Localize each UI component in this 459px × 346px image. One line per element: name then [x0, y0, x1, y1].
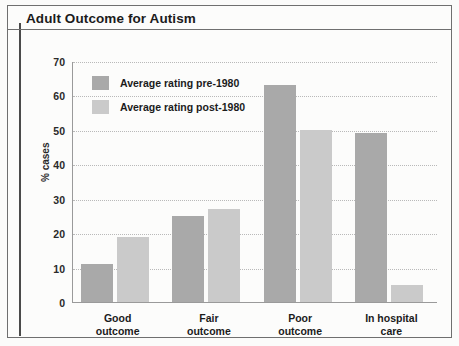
y-tick-50: 50 [25, 125, 65, 137]
legend-item: Average rating pre-1980 [92, 73, 245, 92]
bar [391, 285, 423, 302]
legend-swatch [92, 76, 109, 90]
y-tick-40: 40 [25, 159, 65, 171]
y-tick-20: 20 [25, 228, 65, 240]
chart-legend: Average rating pre-1980Average rating po… [92, 73, 245, 121]
bar [355, 133, 387, 302]
y-tick-0: 0 [25, 297, 65, 309]
bar-group [256, 61, 347, 302]
bar [172, 216, 204, 302]
y-tick-60: 60 [25, 90, 65, 102]
x-tick-line: care [336, 325, 446, 338]
x-tick-line: In hospital [336, 312, 446, 325]
bar [208, 209, 240, 302]
legend-label: Average rating pre-1980 [120, 77, 239, 89]
y-tick-30: 30 [25, 194, 65, 206]
plot-wrapper: % cases 010203040506070 GoodoutcomeFairo… [0, 0, 459, 346]
y-tick-70: 70 [25, 56, 65, 68]
bar [264, 85, 296, 302]
bar [117, 237, 149, 302]
chart-figure: Adult Outcome for Autism % cases 0102030… [0, 0, 459, 346]
legend-label: Average rating post-1980 [120, 101, 245, 113]
legend-item: Average rating post-1980 [92, 97, 245, 116]
x-tick-3: In hospitalcare [336, 312, 446, 338]
bar [81, 264, 113, 302]
bar [300, 130, 332, 302]
legend-swatch [92, 100, 109, 114]
bar-group [347, 61, 438, 302]
y-tick-10: 10 [25, 263, 65, 275]
